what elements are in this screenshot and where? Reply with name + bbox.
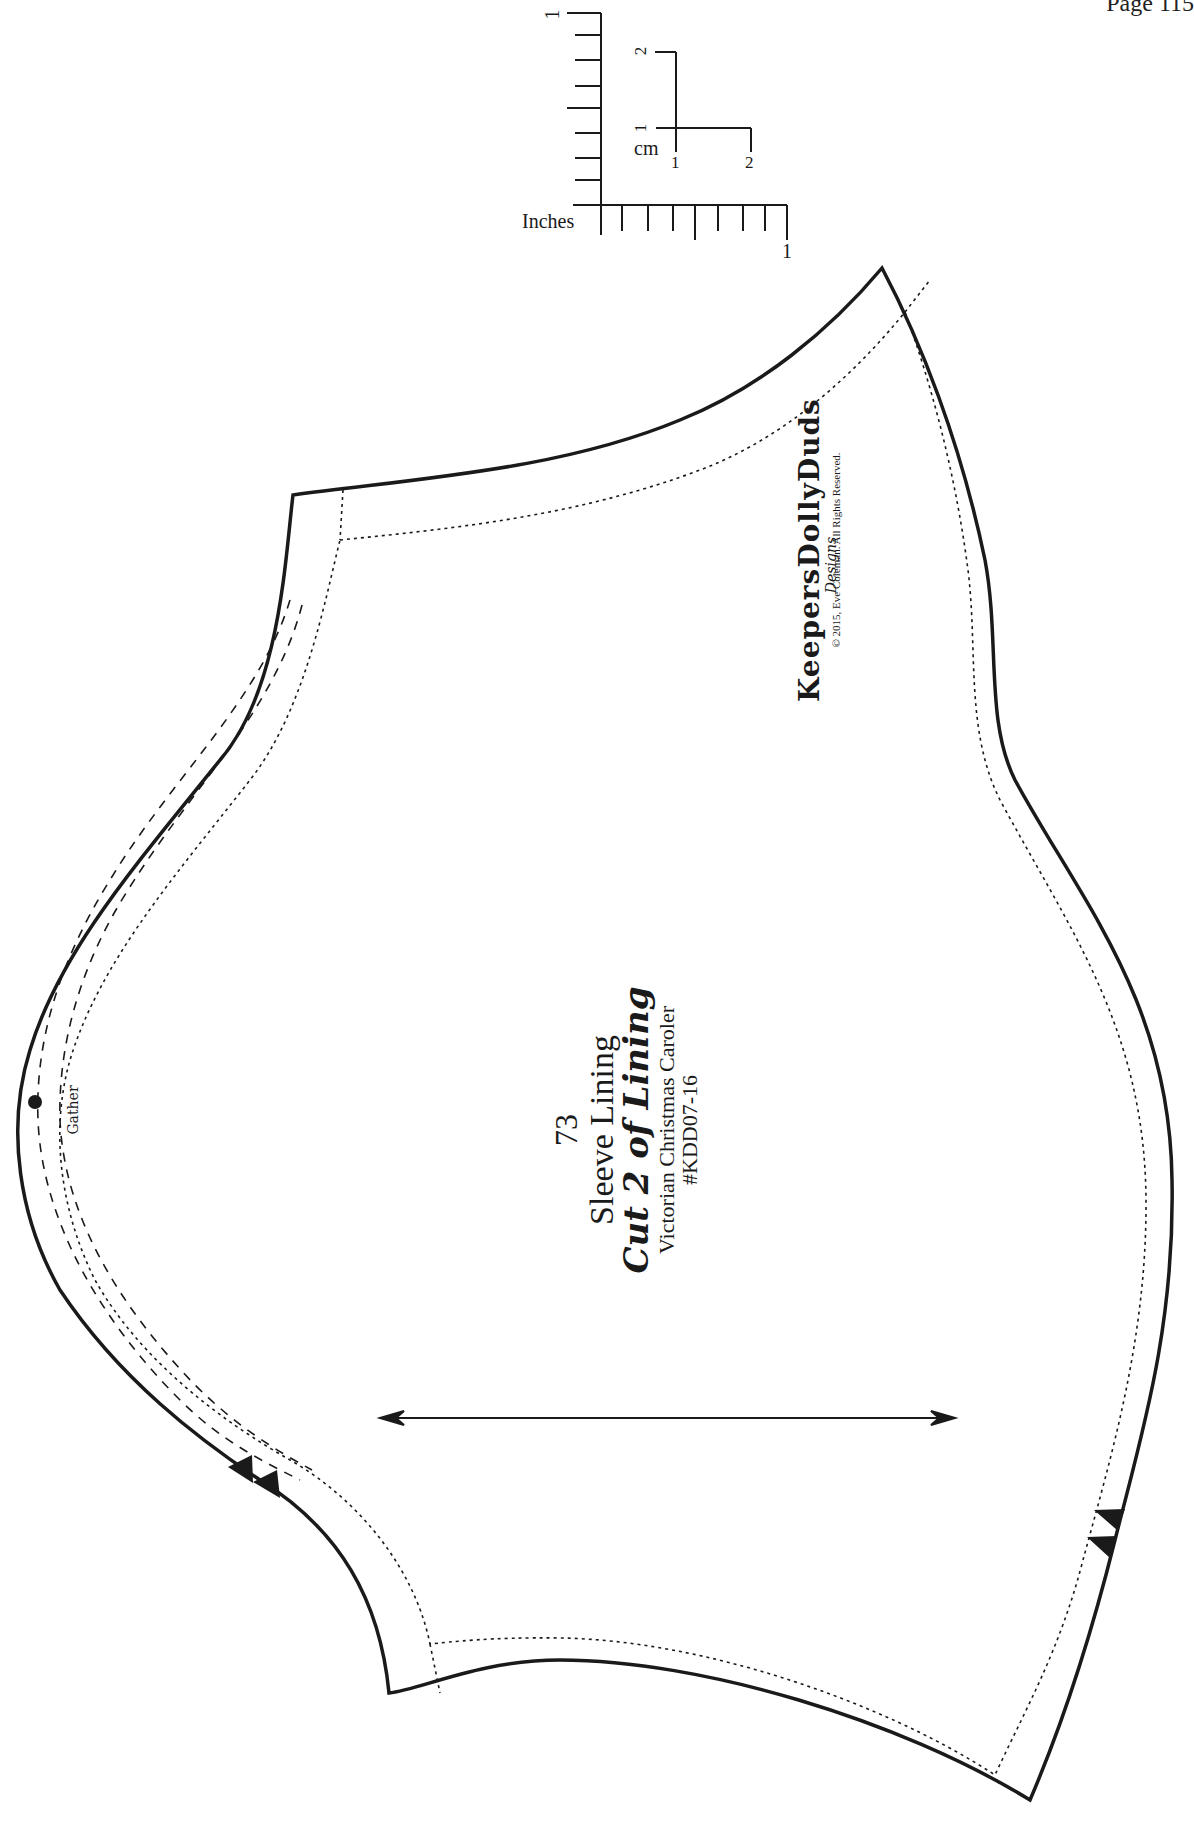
inches-label: Inches <box>522 210 574 233</box>
piece-number: 73 <box>550 1114 584 1146</box>
brand-name: KeepersDollyDuds <box>795 398 824 702</box>
inch-ruler <box>567 13 787 240</box>
gather-lines <box>38 600 312 1480</box>
inch-horizontal-label: 1 <box>782 240 792 263</box>
cm-label: cm <box>634 137 658 160</box>
notch-right <box>1087 1509 1125 1558</box>
cm-vertical-label-2: 2 <box>631 47 651 56</box>
pattern-sku: #KDD07-16 <box>678 1075 701 1185</box>
cut-instruction: Cut 2 of Lining <box>619 987 655 1274</box>
inch-vertical-label: 1 <box>541 10 564 20</box>
piece-title-block: 73 Sleeve Lining Cut 2 of Lining Victori… <box>550 850 730 1410</box>
brand-block: KeepersDollyDuds Designs © 2015, Eve Col… <box>795 370 885 730</box>
cm-horizontal-label-2: 2 <box>745 153 754 173</box>
cm-horizontal-label-1: 1 <box>671 153 680 173</box>
gather-label: Gather <box>65 1070 85 1150</box>
copyright: © 2015, Eve Coleman. All Rights Reserved… <box>831 452 843 647</box>
cm-vertical-label-1: 1 <box>631 124 651 133</box>
piece-name: Sleeve Lining <box>584 1035 620 1225</box>
gather-dot <box>28 1095 42 1109</box>
grainline-arrow <box>380 1411 955 1425</box>
collection-name: Victorian Christmas Caroler <box>655 1006 678 1254</box>
